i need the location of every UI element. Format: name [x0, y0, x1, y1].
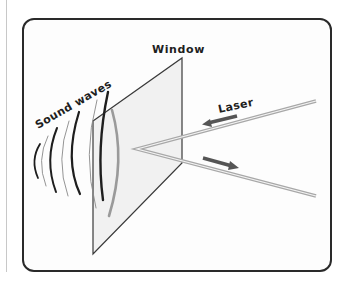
window-label: Window: [152, 43, 205, 56]
laser-microphone-diagram: Window Laser Sound waves: [0, 0, 345, 286]
laser-label: Laser: [217, 96, 255, 116]
